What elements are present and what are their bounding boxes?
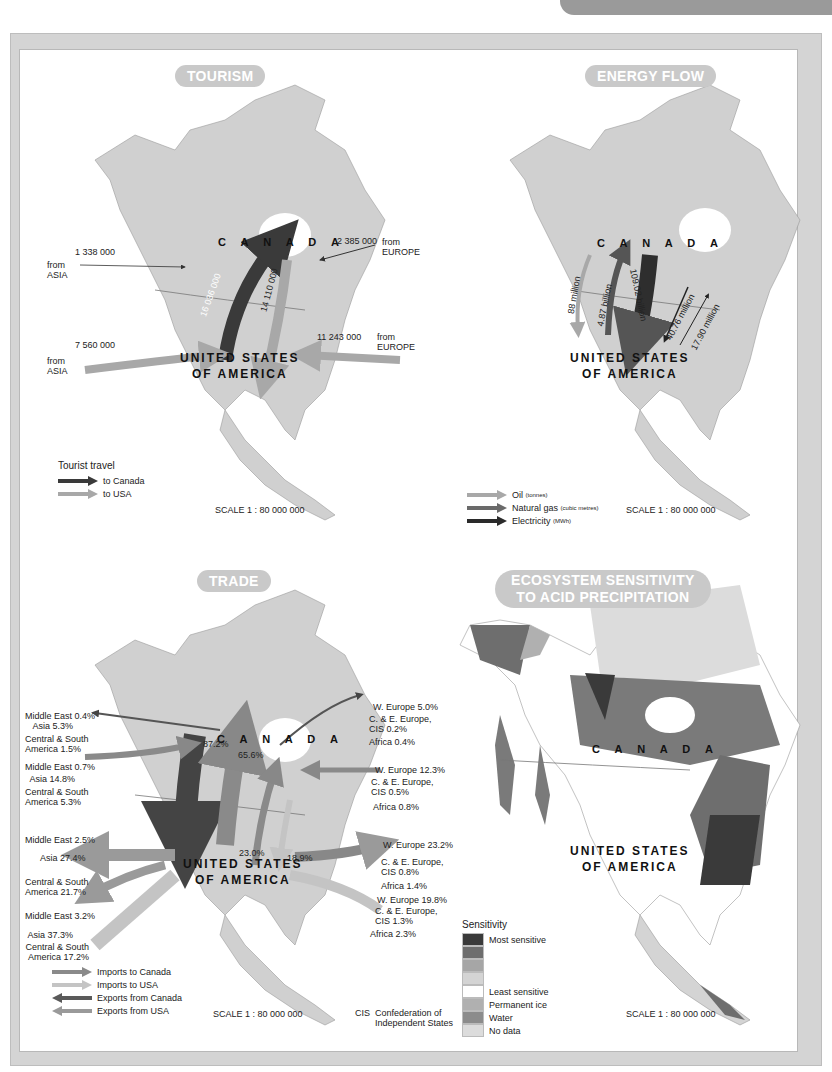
trade-panel: TRADE C A N A D A UNITED STATES OF AMERI… xyxy=(25,565,415,1065)
trade-legend: Imports to Canada Imports to USA Exports… xyxy=(52,965,182,1017)
legend-item-least-sensitive: Least sensitive xyxy=(462,985,549,998)
ecosystem-legend: Sensitivity Most sensitive Least sensiti… xyxy=(462,919,549,1037)
canada-label: C A N A D A xyxy=(217,733,344,745)
cis-footnote: CIS Confederation ofIndependent States xyxy=(355,1008,453,1028)
trade-label-west: Central & SouthAmerica 17.2% xyxy=(25,942,89,962)
legend-item-level-3 xyxy=(462,959,549,972)
page-header-tab xyxy=(560,0,832,15)
flow-asia-usa-origin: fromASIA xyxy=(47,356,68,376)
legend-item-to-usa: to USA xyxy=(58,487,145,500)
legend-item-natural-gas: Natural gas (cubic metres) xyxy=(467,501,599,514)
flow-asia-usa-value: 7 560 000 xyxy=(75,340,115,350)
legend-item-exports-usa: Exports from USA xyxy=(52,1004,182,1017)
north-america-landmass xyxy=(95,85,385,440)
legend-item-level-4 xyxy=(462,972,549,985)
trade-label-east: W. Europe 19.8% xyxy=(377,895,447,905)
legend-item-water: Water xyxy=(462,1011,549,1024)
legend-item-electricity: Electricity (MWh) xyxy=(467,514,599,527)
legend-item-oil: Oil (tonnes) xyxy=(467,488,599,501)
energy-panel: ENERGY FLOW C A N A D A UNITED STATES OF… xyxy=(440,60,830,560)
trade-label-west: Middle East 2.5% xyxy=(25,835,79,845)
tourism-panel: TOURISM C A N A D A UNITED STATES OF AME… xyxy=(25,60,415,560)
legend-item-imports-usa: Imports to USA xyxy=(52,978,182,991)
canada-to-usa-pct: 87.2% xyxy=(203,739,229,749)
trade-label-east: C. & E. Europe,CIS 0.2% xyxy=(369,714,432,734)
legend-item-to-canada: to Canada xyxy=(58,474,145,487)
legend-item-permanent-ice: Permanent ice xyxy=(462,998,549,1011)
trade-label-west: Asia 14.8% xyxy=(25,774,75,784)
trade-pct-23: 23.0% xyxy=(239,848,265,858)
trade-label-east: C. & E. Europe,CIS 0.8% xyxy=(381,857,444,877)
trade-label-east: Africa 2.3% xyxy=(370,929,416,939)
usa-label: UNITED STATES OF AMERICA xyxy=(570,843,690,875)
legend-item-exports-canada: Exports from Canada xyxy=(52,991,182,1004)
canada-label: C A N A D A xyxy=(597,237,724,249)
usa-label: UNITED STATES OF AMERICA xyxy=(183,856,303,888)
trade-label-east: C. & E. Europe,CIS 0.5% xyxy=(371,777,434,797)
ecosystem-panel: ECOSYSTEM SENSITIVITY TO ACID PRECIPITAT… xyxy=(440,565,830,1065)
flow-europe-canada-origin: fromEUROPE xyxy=(382,237,420,257)
flow-europe-canada-value: 2 385 000 xyxy=(337,236,377,246)
legend-item-no-data: No data xyxy=(462,1024,549,1037)
flow-europe-usa-origin: fromEUROPE xyxy=(377,332,415,352)
legend-item-level-2 xyxy=(462,946,549,959)
legend-item-imports-canada: Imports to Canada xyxy=(52,965,182,978)
ecosystem-title: ECOSYSTEM SENSITIVITY TO ACID PRECIPITAT… xyxy=(495,570,711,608)
canada-label: C A N A D A xyxy=(218,236,345,248)
canada-label: C A N A D A xyxy=(592,743,719,755)
tourism-scale: SCALE 1 : 80 000 000 xyxy=(215,505,305,515)
tourism-legend: Tourist travel to Canada to USA xyxy=(58,460,145,500)
tourism-title: TOURISM xyxy=(175,65,265,87)
trade-title: TRADE xyxy=(197,570,271,592)
legend-item-most-sensitive: Most sensitive xyxy=(462,933,549,946)
trade-label-east: Africa 0.8% xyxy=(373,802,419,812)
trade-label-west: Middle East 0.4% xyxy=(25,711,93,721)
ecosystem-scale: SCALE 1 : 80 000 000 xyxy=(626,1009,716,1019)
trade-label-west: Middle East 0.7% xyxy=(25,762,83,772)
flow-europe-usa-value: 11 243 000 xyxy=(317,332,361,342)
trade-label-east: C. & E. Europe,CIS 1.3% xyxy=(375,906,438,926)
usa-label: UNITED STATES OF AMERICA xyxy=(180,350,300,382)
trade-label-west: Central & SouthAmerica 5.3% xyxy=(25,787,79,807)
trade-label-west: Asia 27.4% xyxy=(40,853,86,863)
usa-label: UNITED STATES OF AMERICA xyxy=(570,350,690,382)
trade-label-east: Africa 0.4% xyxy=(369,737,415,747)
trade-scale: SCALE 1 : 80 000 000 xyxy=(213,1009,303,1019)
trade-pct-18: 18.9% xyxy=(287,853,313,863)
trade-label-west: Asia 5.3% xyxy=(25,721,73,731)
flow-asia-canada-origin: fromASIA xyxy=(47,260,68,280)
energy-legend: Oil (tonnes) Natural gas (cubic metres) … xyxy=(467,488,599,527)
trade-label-west: Middle East 3.2% xyxy=(25,911,77,921)
energy-scale: SCALE 1 : 80 000 000 xyxy=(626,505,716,515)
trade-label-west: Central & SouthAmerica 21.7% xyxy=(25,877,77,897)
trade-label-west: Asia 37.3% xyxy=(25,930,73,940)
flow-asia-canada-value: 1 338 000 xyxy=(75,247,115,257)
trade-label-east: Africa 1.4% xyxy=(381,881,427,891)
trade-label-east: W. Europe 5.0% xyxy=(373,702,438,712)
trade-label-west: Central & SouthAmerica 1.5% xyxy=(25,734,77,754)
usa-to-canada-pct: 65.6% xyxy=(238,750,264,760)
trade-label-east: W. Europe 12.3% xyxy=(375,765,445,775)
energy-title: ENERGY FLOW xyxy=(585,65,716,87)
